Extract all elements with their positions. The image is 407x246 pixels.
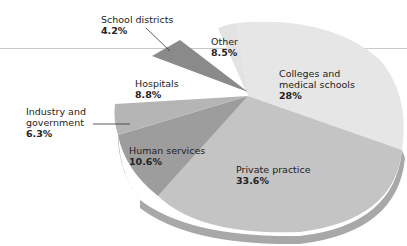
label-human-services: Human services 10.6% xyxy=(129,145,205,167)
label-hospitals: Hospitals 8.8% xyxy=(135,78,179,100)
label-private-practice: Private practice 33.6% xyxy=(236,164,311,186)
label-school-districts: School districts 4.2% xyxy=(101,14,173,36)
label-industry-government: Industry and government 6.3% xyxy=(26,106,86,139)
label-other: Other 8.5% xyxy=(211,36,238,58)
label-colleges: Colleges and medical schools 28% xyxy=(279,68,355,101)
